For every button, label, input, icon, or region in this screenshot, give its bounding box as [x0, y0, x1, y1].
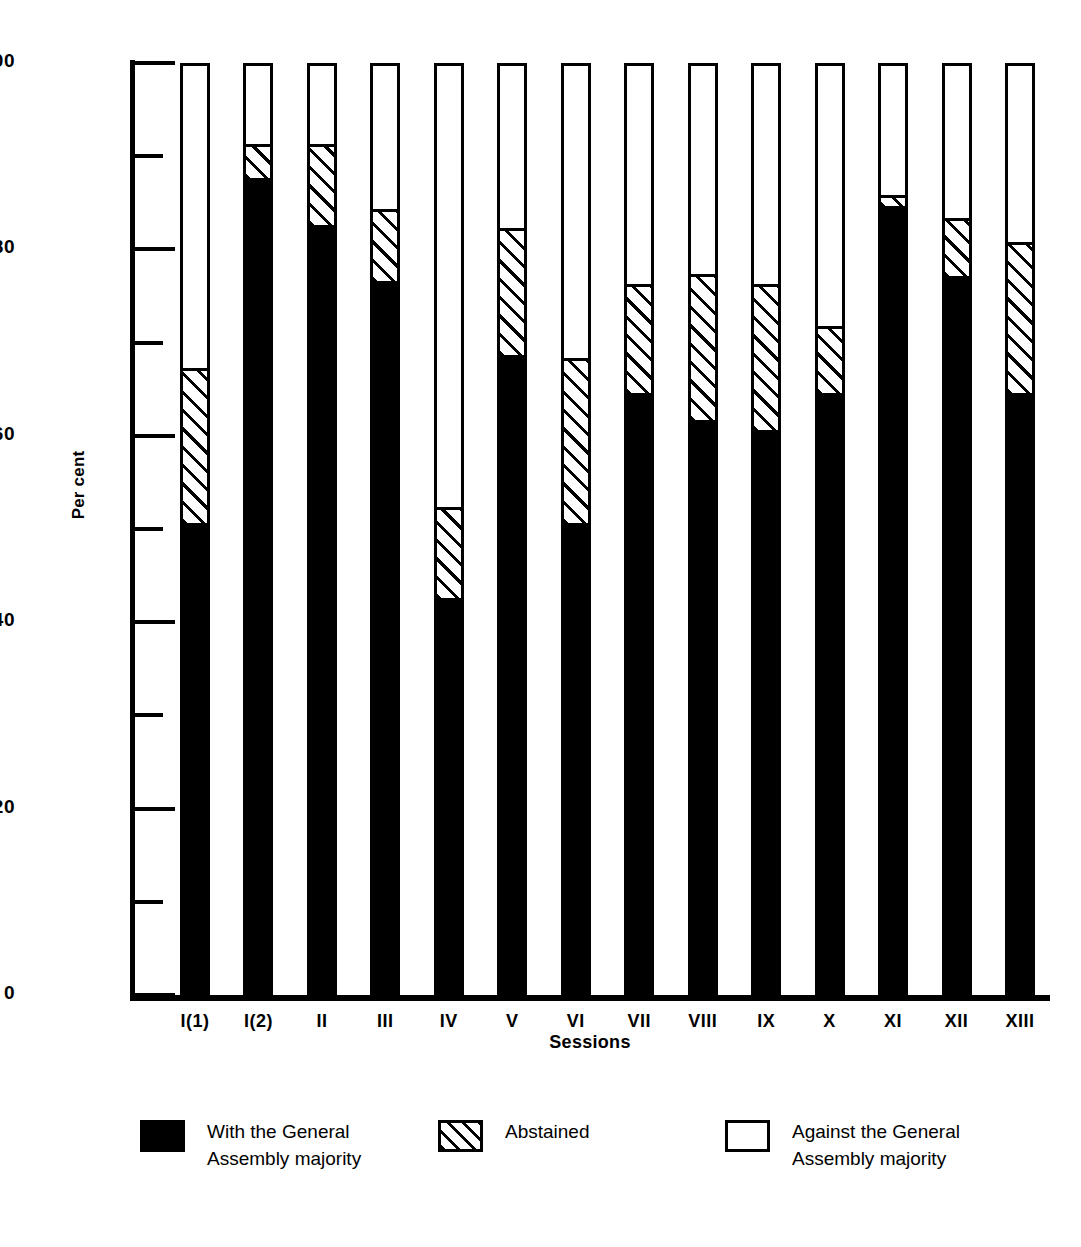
y-axis-minor-tick [135, 900, 163, 904]
segment-with-majority [437, 601, 461, 992]
chart-figure: Per cent 020406080100 I(1)I(2)IIIIIIVVVI… [0, 0, 1081, 1247]
segment-with-majority [564, 526, 588, 992]
y-axis-minor-tick [135, 341, 163, 345]
solid-black-swatch-icon [140, 1120, 185, 1152]
segment-with-majority [881, 209, 905, 992]
y-axis-tick-label: 100 [0, 50, 15, 72]
segment-with-majority [627, 396, 651, 992]
bar-XI[interactable] [878, 63, 908, 995]
legend-entry[interactable]: With the General Assembly majority [140, 1118, 361, 1172]
legend-entry[interactable]: Abstained [438, 1118, 590, 1152]
y-axis-major-tick [135, 434, 175, 438]
y-axis-tick-label: 60 [0, 423, 15, 445]
x-axis-tick-label: XIII [975, 1011, 1065, 1032]
segment-abstained [183, 368, 207, 526]
y-axis-minor-tick [135, 154, 163, 158]
segment-abstained [437, 507, 461, 600]
y-axis-tick-label: 20 [0, 796, 15, 818]
plot-area: 020406080100 I(1)I(2)IIIIIIVVVIVIIVIIIIX… [130, 63, 1050, 995]
segment-abstained [500, 228, 524, 358]
bar-X[interactable] [815, 63, 845, 995]
bar-II[interactable] [307, 63, 337, 995]
y-axis-major-tick [135, 620, 175, 624]
segment-abstained [1008, 242, 1032, 396]
bar-XIII[interactable] [1005, 63, 1035, 995]
y-axis-major-tick [135, 61, 175, 65]
y-axis-minor-tick [135, 713, 163, 717]
segment-with-majority [1008, 396, 1032, 992]
y-axis-major-tick [135, 807, 175, 811]
segment-with-majority [246, 181, 270, 992]
y-axis-tick-label: 80 [0, 236, 15, 258]
hatched-swatch-icon [438, 1120, 483, 1152]
y-axis-major-tick [135, 993, 175, 997]
segment-with-majority [500, 358, 524, 992]
y-axis-title: Per cent [69, 415, 99, 555]
segment-with-majority [310, 228, 334, 992]
bar-IX[interactable] [751, 63, 781, 995]
x-axis-line [130, 995, 1050, 1001]
bar-IV[interactable] [434, 63, 464, 995]
bar-VIII[interactable] [688, 63, 718, 995]
segment-with-majority [754, 433, 778, 992]
legend-entry[interactable]: Against the General Assembly majority [725, 1118, 960, 1172]
segment-with-majority [183, 526, 207, 992]
bar-XII[interactable] [942, 63, 972, 995]
bar-III[interactable] [370, 63, 400, 995]
chart-legend: With the General Assembly majorityAbstai… [140, 1118, 1050, 1198]
y-axis-major-tick [135, 247, 175, 251]
open-swatch-icon [725, 1120, 770, 1152]
x-axis-title: Sessions [130, 1032, 1050, 1053]
segment-abstained [627, 284, 651, 396]
bar-VI[interactable] [561, 63, 591, 995]
segment-with-majority [818, 396, 842, 992]
legend-label: Against the General Assembly majority [792, 1118, 960, 1172]
bar-I2[interactable] [243, 63, 273, 995]
bar-I1[interactable] [180, 63, 210, 995]
segment-abstained [881, 195, 905, 209]
segment-abstained [564, 358, 588, 526]
segment-abstained [945, 218, 969, 279]
segment-with-majority [373, 284, 397, 992]
y-axis-tick-label: 40 [0, 609, 15, 631]
legend-label: Abstained [505, 1118, 590, 1145]
segment-abstained [754, 284, 778, 433]
y-axis-tick-label: 0 [0, 982, 15, 1004]
segment-with-majority [691, 423, 715, 992]
segment-abstained [691, 274, 715, 423]
legend-label: With the General Assembly majority [207, 1118, 361, 1172]
bar-V[interactable] [497, 63, 527, 995]
segment-abstained [818, 326, 842, 396]
bar-VII[interactable] [624, 63, 654, 995]
segment-with-majority [945, 279, 969, 992]
segment-abstained [310, 144, 334, 228]
segment-abstained [246, 144, 270, 181]
y-axis-minor-tick [135, 527, 163, 531]
segment-abstained [373, 209, 397, 284]
